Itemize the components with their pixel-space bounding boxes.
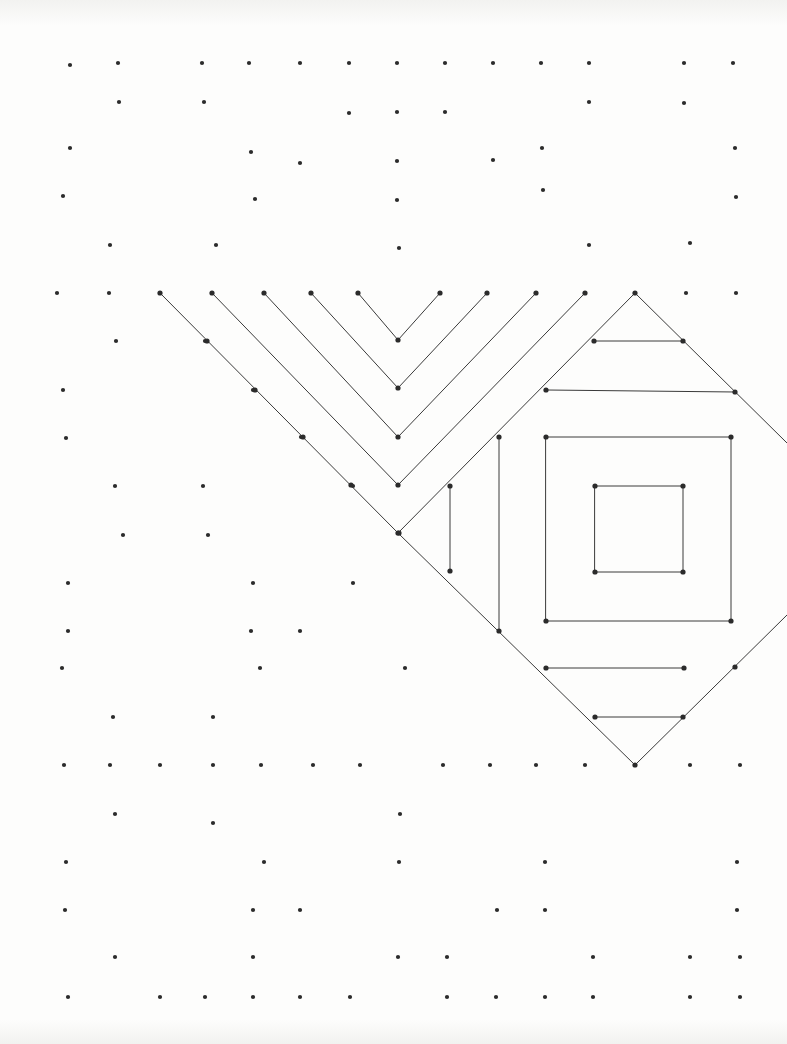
diamond-upper-right-arm bbox=[635, 293, 787, 443]
vertex-dot bbox=[582, 290, 587, 295]
grid-dot bbox=[262, 860, 266, 864]
grid-dot bbox=[117, 100, 121, 104]
grid-dot bbox=[397, 860, 401, 864]
grid-dot bbox=[347, 111, 351, 115]
grid-dot bbox=[491, 61, 495, 65]
grid-dot bbox=[121, 533, 125, 537]
grid-dot bbox=[684, 291, 688, 295]
vertex-dot bbox=[204, 338, 209, 343]
grid-dot bbox=[543, 908, 547, 912]
vertex-dot bbox=[732, 664, 737, 669]
grid-dot bbox=[443, 110, 447, 114]
grid-dot bbox=[688, 995, 692, 999]
grid-dot bbox=[108, 763, 112, 767]
grid-dot bbox=[733, 146, 737, 150]
grid-dot bbox=[591, 995, 595, 999]
vertex-dot bbox=[592, 569, 597, 574]
grid-dot bbox=[443, 61, 447, 65]
vertex-dot bbox=[261, 290, 266, 295]
grid-dot bbox=[311, 763, 315, 767]
vertex-dot bbox=[437, 290, 442, 295]
grid-dot bbox=[735, 860, 739, 864]
grid-dot bbox=[298, 908, 302, 912]
grid-dot bbox=[347, 61, 351, 65]
vertex-dot bbox=[543, 665, 548, 670]
grid-dot bbox=[396, 955, 400, 959]
grid-dot bbox=[214, 243, 218, 247]
grid-dot bbox=[591, 955, 595, 959]
grid-dot bbox=[540, 146, 544, 150]
grid-dot bbox=[61, 194, 65, 198]
grid-dot bbox=[201, 484, 205, 488]
grid-dot bbox=[682, 101, 686, 105]
grid-dot bbox=[249, 150, 253, 154]
vertex-dot bbox=[447, 483, 452, 488]
grid-dot bbox=[202, 100, 206, 104]
grid-dot bbox=[534, 763, 538, 767]
grid-dot bbox=[113, 955, 117, 959]
grid-dot bbox=[211, 763, 215, 767]
diamond-lower-right-arm bbox=[635, 615, 787, 765]
vertex-dot bbox=[395, 482, 400, 487]
grid-dot bbox=[158, 995, 162, 999]
grid-dot bbox=[247, 61, 251, 65]
grid-dot bbox=[64, 860, 68, 864]
grid-dot bbox=[114, 339, 118, 343]
grid-dot bbox=[488, 763, 492, 767]
grid-dot bbox=[298, 61, 302, 65]
grid-dot bbox=[107, 291, 111, 295]
vertex-dot bbox=[632, 762, 637, 767]
grid-dot bbox=[61, 388, 65, 392]
grid-dot bbox=[211, 821, 215, 825]
grid-dot bbox=[738, 763, 742, 767]
grid-dot bbox=[66, 629, 70, 633]
grid-dot bbox=[688, 241, 692, 245]
vertex-dot bbox=[496, 628, 501, 633]
vertex-dot bbox=[395, 434, 400, 439]
vertex-dot bbox=[681, 665, 686, 670]
line-work-layer bbox=[160, 293, 787, 765]
grid-dot bbox=[445, 995, 449, 999]
grid-dot bbox=[494, 995, 498, 999]
grid-dot bbox=[688, 955, 692, 959]
vertex-dot bbox=[592, 714, 597, 719]
vertex-dot bbox=[728, 434, 733, 439]
vertex-dot bbox=[355, 290, 360, 295]
chevron-3 bbox=[264, 293, 536, 437]
grid-dot bbox=[113, 812, 117, 816]
grid-dot bbox=[348, 995, 352, 999]
vertex-dot bbox=[252, 387, 257, 392]
grid-dot bbox=[298, 995, 302, 999]
paper-canvas bbox=[0, 0, 787, 1044]
vertex-dot bbox=[543, 618, 548, 623]
grid-dot bbox=[63, 908, 67, 912]
grid-dot bbox=[251, 908, 255, 912]
grid-dot bbox=[587, 100, 591, 104]
vertex-dot bbox=[543, 387, 548, 392]
square-inner bbox=[595, 486, 683, 572]
grid-dot bbox=[738, 955, 742, 959]
grid-dot bbox=[111, 715, 115, 719]
grid-dot bbox=[116, 61, 120, 65]
grid-dot bbox=[68, 146, 72, 150]
grid-dot bbox=[395, 110, 399, 114]
grid-dot bbox=[68, 63, 72, 67]
grid-dot bbox=[735, 908, 739, 912]
vertex-dot bbox=[533, 290, 538, 295]
grid-dot bbox=[441, 763, 445, 767]
grid-dot bbox=[541, 188, 545, 192]
chevron-5-inner bbox=[358, 293, 440, 340]
grid-dot bbox=[253, 197, 257, 201]
vertex-dot bbox=[308, 290, 313, 295]
vertex-dot bbox=[632, 290, 637, 295]
grid-dot bbox=[395, 198, 399, 202]
grid-dot bbox=[211, 715, 215, 719]
grid-dot bbox=[398, 812, 402, 816]
vertex-dot bbox=[732, 389, 737, 394]
grid-dot bbox=[587, 61, 591, 65]
vertex-dot bbox=[348, 482, 353, 487]
vertex-dot bbox=[591, 338, 596, 343]
grid-dot bbox=[395, 159, 399, 163]
grid-dot bbox=[108, 243, 112, 247]
grid-dot bbox=[587, 243, 591, 247]
